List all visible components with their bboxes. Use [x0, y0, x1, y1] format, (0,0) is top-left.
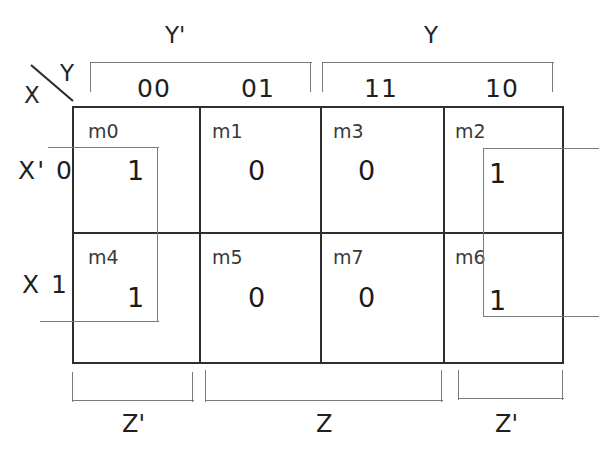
cell-value-m5: 0 — [248, 282, 265, 313]
bottom-group-label-z-not-right: Z' — [495, 412, 518, 436]
minterm-label-m7: m7 — [333, 246, 364, 268]
column-header-11: 11 — [364, 76, 398, 101]
grid-divider-rows — [72, 232, 564, 234]
grid-divider-col-2 — [320, 106, 322, 364]
bottom-group-label-z: Z — [316, 412, 332, 436]
cell-value-m6: 1 — [489, 285, 506, 316]
grid-divider-col-3 — [443, 106, 445, 364]
grid-border-top — [72, 106, 564, 108]
minterm-label-m5: m5 — [212, 246, 243, 268]
kmap-diagram: Y' Y Y X 00 01 11 10 X' 0 X 1 — [0, 0, 616, 454]
minterm-label-m1: m1 — [212, 120, 243, 142]
column-header-10: 10 — [485, 76, 519, 101]
cell-value-m4: 1 — [127, 282, 144, 313]
cell-value-m2: 1 — [489, 158, 506, 189]
grid-divider-col-1 — [199, 106, 201, 364]
cell-value-m1: 0 — [248, 155, 265, 186]
cell-value-m3: 0 — [358, 155, 375, 186]
top-group-label-y: Y — [424, 24, 438, 47]
minterm-label-m3: m3 — [333, 120, 364, 142]
corner-row-var-label: X — [24, 84, 40, 107]
cell-value-m7: 0 — [358, 282, 375, 313]
grid-border-left — [72, 106, 74, 364]
column-header-01: 01 — [241, 76, 275, 101]
row-header-var-1: X — [22, 270, 41, 299]
corner-col-var-label: Y — [60, 62, 74, 85]
row-header-x-not-0: X' 0 — [18, 158, 74, 183]
row-header-code-1: 1 — [51, 270, 69, 299]
minterm-label-m0: m0 — [88, 120, 119, 142]
row-header-x-1: X 1 — [22, 272, 69, 297]
bottom-group-label-z-not-left: Z' — [122, 412, 145, 436]
minterm-label-m2: m2 — [455, 120, 486, 142]
grid-border-bottom — [72, 362, 564, 364]
column-header-00: 00 — [137, 76, 171, 101]
row-header-var-0: X' — [18, 156, 46, 185]
top-group-label-y-not: Y' — [165, 24, 185, 47]
grid-border-right — [562, 106, 564, 364]
minterm-label-m6: m6 — [455, 246, 486, 268]
cell-value-m0: 1 — [127, 155, 144, 186]
minterm-label-m4: m4 — [88, 246, 119, 268]
